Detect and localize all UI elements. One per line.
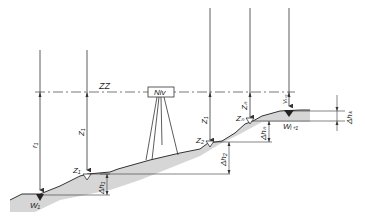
zz-label: ZZ: [98, 81, 110, 91]
ground-line: [10, 110, 310, 200]
instrument-label: Niv: [154, 88, 167, 97]
dhn-label: Δhₙ: [259, 126, 268, 141]
ground-fill: [10, 110, 310, 212]
z1-point-label: Z₁: [72, 166, 81, 175]
v-next-label: Vᵢ₊₁: [282, 94, 288, 104]
dh1-label: Δh₁: [97, 181, 106, 195]
r1-label: r₁: [30, 142, 39, 148]
zn-point-label: Zₙ: [235, 114, 245, 123]
w1-label: W₁: [30, 201, 41, 210]
dhk-label: Δhₖ: [345, 110, 354, 125]
tripod-icon: [146, 97, 178, 160]
levelling-diagram: Niv ZZ r₁ Z₁ Z₁ Zₙ Vᵢ₊₁ Z₁ Z₂ Zₙ W₁ Wᵢ₊₁…: [0, 0, 365, 219]
dh2-label: Δh₂: [219, 153, 228, 167]
z2-point-label: Z₂: [195, 136, 204, 145]
z1-vert-label: Z₁: [77, 128, 86, 137]
w-next-label: Wᵢ₊₁: [283, 122, 299, 131]
zn-vert-label: Zₙ: [240, 101, 249, 111]
z2-vert-label: Z₁: [200, 116, 209, 125]
